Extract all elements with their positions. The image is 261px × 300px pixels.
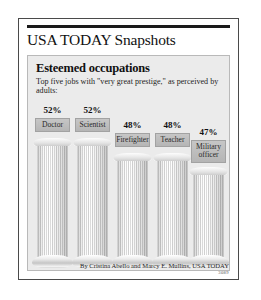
- column-shaft-icon: [77, 146, 108, 259]
- snapshot-card: USA TODAY Snapshots Esteemed occupations…: [18, 18, 239, 280]
- bar-value-label: 47%: [190, 127, 227, 137]
- bar-value-label: 48%: [114, 120, 151, 130]
- graphic-code: 3089: [218, 270, 229, 275]
- bar-category-label: Firefighter: [115, 133, 150, 147]
- bar-category-label: Scientist: [75, 118, 110, 132]
- bar-category-label: Military officer: [191, 140, 226, 163]
- column-shaft-icon: [117, 161, 148, 259]
- bar-value-label: 48%: [154, 120, 191, 130]
- chart-plot-area: 52% Doctor 52% Scientist 48% Firefighter: [30, 100, 229, 270]
- bar-column: 52% Doctor: [34, 118, 71, 268]
- brand-header: USA TODAY Snapshots: [27, 31, 230, 53]
- bar-category-label: Doctor: [35, 118, 70, 132]
- chart-subtitle: Top five jobs with "very great prestige,…: [36, 77, 226, 96]
- column-shaft-icon: [37, 146, 68, 259]
- chart-title: Esteemed occupations: [36, 61, 150, 76]
- header-rule: [27, 25, 230, 28]
- chart-panel: Esteemed occupations Top five jobs with …: [27, 55, 230, 271]
- column-shaft-icon: [193, 175, 224, 259]
- bar-column: 47% Military officer: [190, 140, 227, 268]
- bar-column: 52% Scientist: [74, 118, 111, 268]
- credit-line: By Cristina Abello and Marcy E. Mullins,…: [80, 262, 229, 269]
- column-base-icon: [32, 255, 73, 268]
- bar-category-label: Teacher: [155, 133, 190, 147]
- bar-column: 48% Teacher: [154, 133, 191, 268]
- bar-value-label: 52%: [74, 105, 111, 115]
- bar-value-label: 52%: [34, 105, 71, 115]
- bar-column: 48% Firefighter: [114, 133, 151, 268]
- brand-title: USA TODAY Snapshots: [27, 31, 230, 49]
- column-shaft-icon: [157, 161, 188, 259]
